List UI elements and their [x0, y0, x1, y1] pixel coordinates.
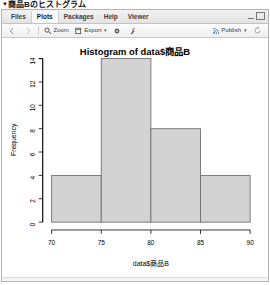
plots-panel: Files Plots Packages Help Viewer	[1, 9, 269, 282]
plots-toolbar: Zoom Export ▾	[2, 24, 268, 38]
magnifier-icon	[44, 27, 52, 35]
y-tick-6: 6	[29, 152, 36, 156]
bar-85-90	[201, 175, 251, 222]
plot-canvas[interactable]: Histogram of data$商品B 0 2 4 6 8 1	[2, 38, 268, 277]
chevron-down-icon: ▾	[244, 25, 247, 36]
publish-label: Publish	[221, 25, 241, 36]
panel-footer	[2, 277, 268, 281]
chart-title: Histogram of data$商品B	[80, 46, 190, 57]
broom-icon	[129, 27, 137, 35]
back-button[interactable]	[5, 27, 21, 35]
tab-files[interactable]: Files	[6, 11, 31, 23]
y-tick-0: 0	[29, 222, 36, 226]
y-axis-ticks	[39, 59, 43, 223]
toolbar-right-group: Publish ▾	[209, 24, 266, 37]
remove-plot-button[interactable]	[110, 27, 126, 35]
y-tick-14: 14	[29, 57, 36, 65]
y-tick-8: 8	[29, 129, 36, 133]
y-axis-label: Frequency	[10, 123, 18, 156]
caption-text: 商品Bのヒストグラム	[8, 0, 86, 9]
tab-packages[interactable]: Packages	[59, 11, 99, 23]
publish-icon	[212, 27, 220, 35]
y-axis-line	[39, 59, 43, 223]
x-axis-tick-labels: 70 75 80 85 90	[48, 239, 254, 246]
arrow-left-icon	[8, 27, 16, 35]
export-button[interactable]: Export ▾	[72, 25, 110, 36]
y-tick-12: 12	[29, 80, 36, 88]
publish-button[interactable]: Publish ▾	[209, 25, 250, 36]
refresh-icon	[253, 26, 262, 35]
chevron-down-icon: ▾	[104, 25, 107, 36]
maximize-icon[interactable]	[256, 12, 265, 20]
gear-icon	[113, 27, 121, 35]
bar-75-80	[101, 59, 151, 223]
histogram-bars	[52, 59, 251, 223]
window-controls	[248, 12, 265, 20]
zoom-button[interactable]: Zoom	[41, 25, 72, 36]
arrow-right-icon	[24, 27, 32, 35]
zoom-label: Zoom	[54, 25, 69, 36]
tab-viewer[interactable]: Viewer	[123, 11, 154, 23]
x-tick-75: 75	[98, 239, 106, 246]
x-tick-90: 90	[247, 239, 255, 246]
clear-plots-button[interactable]	[126, 27, 142, 35]
tab-help[interactable]: Help	[99, 11, 123, 23]
refresh-button[interactable]	[250, 26, 267, 35]
minimize-icon[interactable]	[248, 13, 254, 19]
x-tick-70: 70	[48, 239, 56, 246]
export-icon	[75, 27, 83, 35]
y-tick-2: 2	[29, 199, 36, 203]
tab-plots[interactable]: Plots	[31, 11, 59, 23]
x-tick-80: 80	[147, 239, 155, 246]
plot-caption: ▼商品Bのヒストグラム	[0, 0, 270, 9]
y-tick-4: 4	[29, 176, 36, 180]
bar-70-75	[52, 175, 102, 222]
x-axis-ticks	[52, 230, 251, 234]
x-tick-85: 85	[197, 239, 205, 246]
forward-button[interactable]	[21, 27, 37, 35]
y-tick-10: 10	[29, 104, 36, 112]
y-axis-tick-labels: 0 2 4 6 8 10 12 14	[29, 57, 36, 226]
histogram-svg: Histogram of data$商品B 0 2 4 6 8 1	[2, 38, 268, 277]
export-label: Export	[84, 25, 101, 36]
toolbar-divider-1	[38, 26, 39, 35]
bar-80-85	[151, 129, 201, 222]
panel-tabbar: Files Plots Packages Help Viewer	[2, 10, 268, 24]
x-axis-label: data$商品B	[133, 259, 169, 268]
